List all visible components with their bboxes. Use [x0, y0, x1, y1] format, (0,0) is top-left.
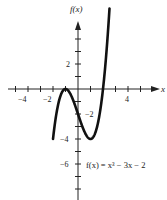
function-graph: f(x) x −4 −2 4 2 −2 −4 −6 f(x) = x³ − 3x… — [0, 0, 167, 200]
y-tick-label-neg6: −6 — [60, 160, 69, 169]
x-axis-arrow-icon — [151, 86, 160, 92]
y-tick-label-2: 2 — [66, 60, 70, 69]
equation-annotation: f(x) = x³ − 3x − 2 — [86, 160, 145, 170]
y-tick-label-neg4: −4 — [60, 135, 69, 144]
x-tick-label-4: 4 — [125, 95, 129, 104]
y-tick-label-neg2: −2 — [85, 110, 94, 119]
y-axis-arrow-icon — [75, 21, 81, 30]
x-tick-label-neg2: −2 — [43, 95, 52, 104]
y-axis-label: f(x) — [70, 4, 83, 14]
x-tick-label-neg4: −4 — [18, 95, 27, 104]
x-axis-label: x — [160, 84, 165, 94]
x-axis — [8, 86, 160, 92]
function-curve — [53, 8, 110, 139]
